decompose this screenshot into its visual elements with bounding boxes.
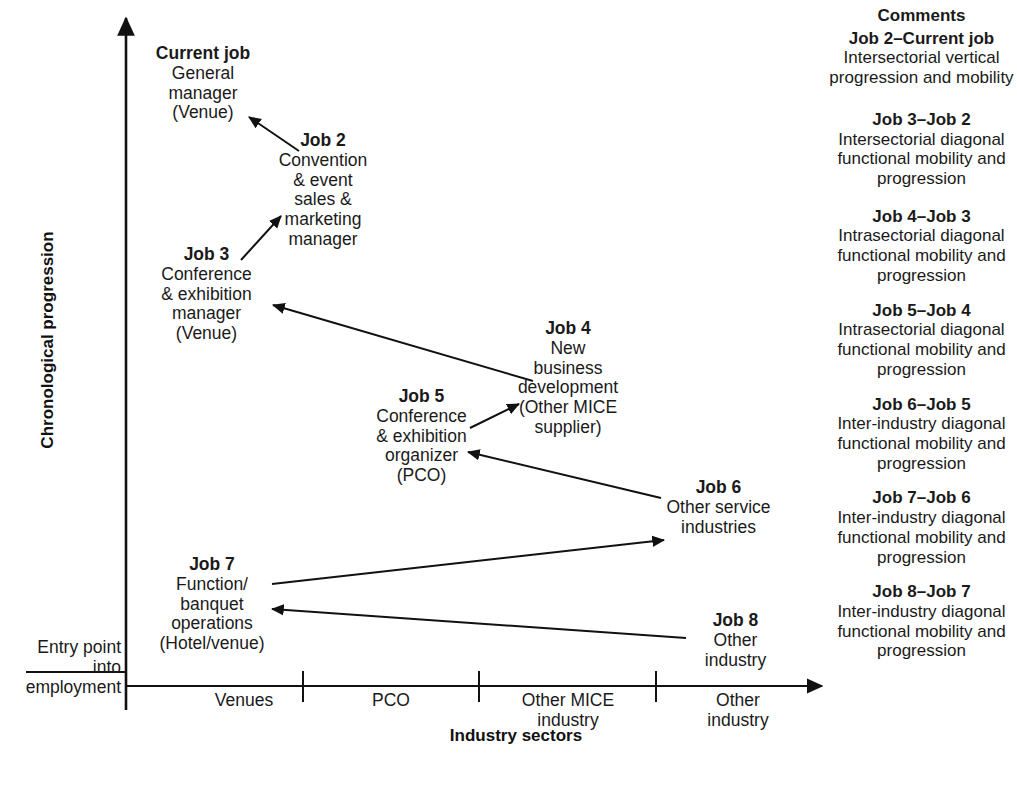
comment-job6-job5-head: Job 6–Job 5	[826, 395, 1017, 415]
comment-job3-job2-line-3: progression	[826, 169, 1017, 189]
comment-job4-job3-line-1: Intrasectorial diagonal	[826, 226, 1017, 246]
node-current-job-title: Current job	[133, 44, 273, 64]
comment-job5-job4-line-3: progression	[826, 360, 1017, 380]
node-job-6-title: Job 6	[646, 478, 791, 498]
node-current-job-line-3: (Venue)	[133, 103, 273, 123]
comment-job5-job4-line-1: Intrasectorial diagonal	[826, 320, 1017, 340]
comment-job7-job6-line-2: functional mobility and	[826, 528, 1017, 548]
comments-heading: Comments	[826, 6, 1017, 26]
node-job-2-line-1: Convention	[259, 151, 387, 171]
comment-job7-job6: Job 7–Job 6 Inter-industry diagonal func…	[826, 488, 1017, 567]
comment-job6-job5-line-1: Inter-industry diagonal	[826, 414, 1017, 434]
node-current-job: Current job General manager (Venue)	[133, 44, 273, 123]
entry-point-line-2: into	[0, 658, 121, 678]
node-job-3-title: Job 3	[139, 245, 274, 265]
node-job-6: Job 6 Other service industries	[646, 478, 791, 537]
sector-venues-line-1: Venues	[184, 691, 304, 711]
sector-pco-line-1: PCO	[331, 691, 451, 711]
arrow-job7-to-job6	[272, 540, 664, 584]
comment-job6-job5-line-3: progression	[826, 454, 1017, 474]
node-job-8-line-2: industry	[678, 651, 793, 671]
node-job-3: Job 3 Conference & exhibition manager (V…	[139, 245, 274, 344]
comment-job5-job4-line-2: functional mobility and	[826, 340, 1017, 360]
node-job-5-line-4: (PCO)	[354, 466, 489, 486]
node-job-2-line-2: & event	[259, 171, 387, 191]
entry-point-line-3: employment	[0, 678, 121, 698]
comment-job4-job3-line-2: functional mobility and	[826, 246, 1017, 266]
node-job-5: Job 5 Conference & exhibition organizer …	[354, 387, 489, 486]
sector-label-venues: Venues	[184, 691, 304, 711]
comment-job4-job3: Job 4–Job 3 Intrasectorial diagonal func…	[826, 207, 1017, 286]
sector-other-mice-line-2: industry	[503, 711, 633, 731]
node-job-4-line-5: supplier)	[499, 418, 637, 438]
entry-point-label: Entry point into employment	[0, 638, 121, 697]
node-job-5-line-1: Conference	[354, 407, 489, 427]
comment-job3-job2-line-2: functional mobility and	[826, 149, 1017, 169]
node-job-4-line-4: (Other MICE	[499, 398, 637, 418]
node-job-4-line-1: New	[499, 339, 637, 359]
comment-job7-job6-head: Job 7–Job 6	[826, 488, 1017, 508]
node-job-4-line-2: business	[499, 359, 637, 379]
sector-label-other-industry: Other industry	[678, 691, 798, 731]
node-job-4-line-3: development	[499, 378, 637, 398]
comments-column: Comments Job 2–Current job Intersectoria…	[826, 6, 1017, 663]
node-job-3-line-4: (Venue)	[139, 324, 274, 344]
sector-other-mice-line-1: Other MICE	[503, 691, 633, 711]
comment-job3-job2: Job 3–Job 2 Intersectorial diagonal func…	[826, 110, 1017, 189]
node-job-8: Job 8 Other industry	[678, 611, 793, 670]
node-current-job-line-2: manager	[133, 84, 273, 104]
comment-job8-job7-line-1: Inter-industry diagonal	[826, 602, 1017, 622]
comment-job4-job3-head: Job 4–Job 3	[826, 207, 1017, 227]
node-job-7-line-1: Function/	[142, 575, 282, 595]
comment-job8-job7-line-2: functional mobility and	[826, 622, 1017, 642]
comment-job3-job2-line-1: Intersectorial diagonal	[826, 130, 1017, 150]
node-job-5-line-2: & exhibition	[354, 427, 489, 447]
y-axis-label: Chronological progression	[38, 230, 58, 450]
comment-job5-job4: Job 5–Job 4 Intrasectorial diagonal func…	[826, 301, 1017, 380]
comment-job6-job5: Job 6–Job 5 Inter-industry diagonal func…	[826, 395, 1017, 474]
comment-job8-job7-head: Job 8–Job 7	[826, 582, 1017, 602]
comment-job6-job5-line-2: functional mobility and	[826, 434, 1017, 454]
entry-point-line-1: Entry point	[0, 638, 121, 658]
comment-job2-current: Job 2–Current job Intersectorial vertica…	[826, 29, 1017, 88]
node-job-2-line-5: manager	[259, 230, 387, 250]
node-job-3-line-1: Conference	[139, 265, 274, 285]
comment-job3-job2-head: Job 3–Job 2	[826, 110, 1017, 130]
arrow-job6-to-job5	[468, 452, 661, 498]
sector-other-industry-line-2: industry	[678, 711, 798, 731]
comment-job4-job3-line-3: progression	[826, 266, 1017, 286]
node-job-7-line-3: operations	[142, 614, 282, 634]
sector-label-pco: PCO	[331, 691, 451, 711]
node-job-2-line-4: marketing	[259, 210, 387, 230]
node-job-7: Job 7 Function/ banquet operations (Hote…	[142, 555, 282, 654]
comment-job8-job7: Job 8–Job 7 Inter-industry diagonal func…	[826, 582, 1017, 661]
node-current-job-line-1: General	[133, 64, 273, 84]
node-job-7-line-2: banquet	[142, 595, 282, 615]
node-job-5-title: Job 5	[354, 387, 489, 407]
node-job-3-line-3: manager	[139, 304, 274, 324]
node-job-5-line-3: organizer	[354, 446, 489, 466]
arrow-job4-to-job3	[273, 305, 533, 381]
node-job-7-line-4: (Hotel/venue)	[142, 634, 282, 654]
node-job-2-title: Job 2	[259, 131, 387, 151]
node-job-4: Job 4 New business development (Other MI…	[499, 319, 637, 438]
node-job-8-line-1: Other	[678, 631, 793, 651]
comment-job2-current-line-2: progression and mobility	[826, 68, 1017, 88]
node-job-8-title: Job 8	[678, 611, 793, 631]
node-job-3-line-2: & exhibition	[139, 285, 274, 305]
node-job-6-line-1: Other service	[646, 498, 791, 518]
comment-job8-job7-line-3: progression	[826, 641, 1017, 661]
comment-job2-current-head: Job 2–Current job	[826, 29, 1017, 49]
node-job-7-title: Job 7	[142, 555, 282, 575]
node-job-2: Job 2 Convention & event sales & marketi…	[259, 131, 387, 250]
diagram-canvas: Chronological progression Industry secto…	[0, 0, 1017, 791]
node-job-6-line-2: industries	[646, 518, 791, 538]
comment-job7-job6-line-3: progression	[826, 548, 1017, 568]
node-job-2-line-3: sales &	[259, 190, 387, 210]
comment-job7-job6-line-1: Inter-industry diagonal	[826, 508, 1017, 528]
node-job-4-title: Job 4	[499, 319, 637, 339]
comment-job5-job4-head: Job 5–Job 4	[826, 301, 1017, 321]
sector-label-other-mice: Other MICE industry	[503, 691, 633, 731]
comment-job2-current-line-1: Intersectorial vertical	[826, 48, 1017, 68]
sector-other-industry-line-1: Other	[678, 691, 798, 711]
